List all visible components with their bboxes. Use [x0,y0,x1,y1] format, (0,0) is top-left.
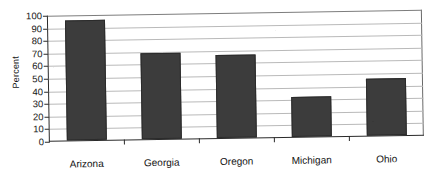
x-axis-tick-mark [124,140,125,145]
y-axis-tick-label: 60 [32,61,43,71]
plot-area: 1009080706050403020100 ArizonaGeorgiaOre… [47,10,424,142]
y-axis-tick-label: 20 [33,112,44,122]
bar-arizona [64,20,106,140]
bar-oregon [215,54,256,138]
y-axis-tick-label: 0 [39,137,44,147]
x-axis-label-georgia: Georgia [144,158,180,169]
bar-chart-figure: Percent 1009080706050403020100 ArizonaGe… [0,0,444,169]
bar-ohio [365,78,406,135]
y-axis-tick-label: 80 [32,36,43,46]
x-axis-tick-mark [199,138,200,143]
y-axis-tick-mark [44,117,49,118]
x-axis-tick-mark [349,136,350,141]
x-axis-label-arizona: Arizona [70,159,104,169]
x-axis-label-oregon: Oregon [220,157,254,168]
y-axis-tick-mark [44,66,49,67]
y-axis-tick-label: 40 [32,87,43,97]
y-axis-title: Percent [10,42,21,102]
y-axis-tick-mark [45,142,50,143]
gridline [47,10,422,17]
chart-skew-wrapper: Percent 1009080706050403020100 ArizonaGe… [0,0,444,169]
y-axis-tick-mark [43,54,48,55]
bar-michigan [291,96,332,137]
y-axis-tick-mark [43,41,48,42]
y-axis-tick-label: 100 [26,11,42,21]
y-axis-tick-label: 50 [32,74,43,84]
y-axis-tick-label: 90 [31,24,42,34]
y-axis-tick-mark [43,16,48,17]
gridlines-group [47,10,422,16]
x-axis-label-michigan: Michigan [292,155,332,166]
y-axis-tick-mark [43,28,48,29]
y-axis-tick-mark [44,79,49,80]
bar-georgia [140,53,181,139]
y-axis-tick-mark [44,104,49,105]
y-axis-tick-mark [44,91,49,92]
y-axis-tick-label: 30 [33,99,44,109]
y-axis-tick-mark [45,129,50,130]
y-axis-tick-label: 70 [32,49,43,59]
y-axis-tick-label: 10 [33,124,44,134]
x-axis-tick-mark [274,137,275,142]
x-axis-label-ohio: Ohio [376,154,397,164]
